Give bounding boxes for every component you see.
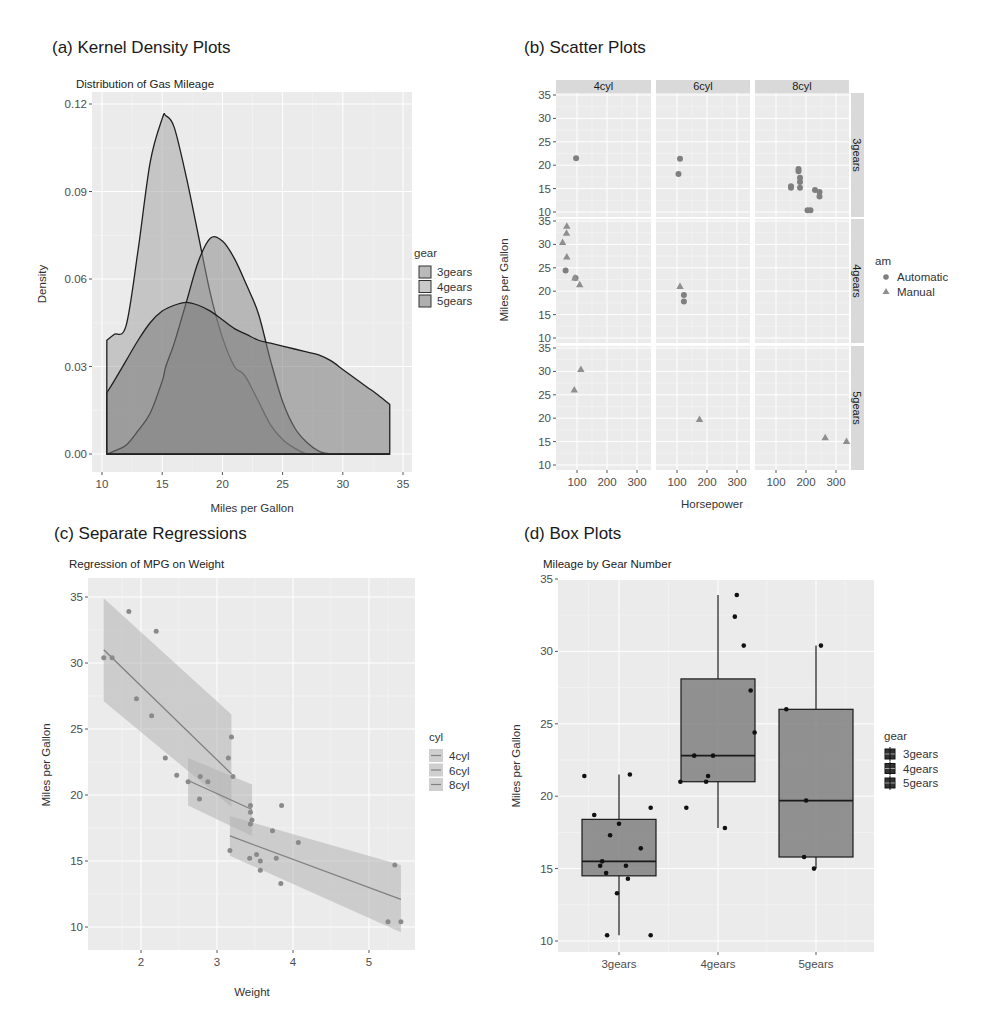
y-tick-label: 20	[70, 789, 83, 801]
box-plot: 1015202530353gears4gears5gearsMiles per …	[510, 573, 938, 970]
y-tick-label: 35	[538, 215, 551, 227]
x-tick-label: 3	[214, 956, 220, 968]
jitter-point	[626, 876, 631, 881]
legend-key-5gears	[419, 295, 431, 307]
y-tick-label: 30	[538, 238, 551, 250]
y-tick-label: 25	[538, 262, 551, 274]
data-point	[174, 773, 179, 778]
jitter-point	[735, 593, 740, 598]
jitter-point	[684, 805, 689, 810]
y-tick-label: 15	[538, 436, 551, 448]
jitter-point	[617, 821, 622, 826]
y-tick-label: 30	[538, 112, 551, 124]
svg-text:8cyl: 8cyl	[792, 80, 812, 92]
jitter-point	[638, 846, 643, 851]
x-tick-label: 200	[796, 476, 815, 488]
legend: gear3gears4gears5gears	[884, 730, 938, 790]
jitter-point	[804, 798, 809, 803]
y-tick-label: 35	[70, 591, 83, 603]
data-point	[274, 856, 279, 861]
y-tick-label: 20	[540, 790, 553, 802]
legend-key-3gears	[419, 266, 431, 278]
jitter-point	[608, 833, 613, 838]
plot-background	[656, 346, 750, 470]
x-tick-label: 200	[597, 476, 616, 488]
jitter-point	[598, 863, 603, 868]
y-axis-title: Miles per Gallon	[510, 724, 522, 807]
plot-background	[656, 219, 750, 343]
x-tick-label: 15	[156, 478, 169, 490]
data-point	[279, 803, 284, 808]
y-tick-label: 30	[538, 365, 551, 377]
data-point-automatic	[676, 171, 682, 177]
jitter-point	[704, 779, 709, 784]
svg-text:gear: gear	[414, 247, 437, 259]
x-tick-label: 300	[826, 476, 845, 488]
y-tick-label: 15	[538, 183, 551, 195]
data-point	[258, 868, 263, 873]
data-point-automatic	[808, 207, 814, 213]
data-point	[296, 840, 301, 845]
box-3gears	[582, 819, 656, 875]
box-5gears	[779, 709, 853, 857]
svg-text:5gears: 5gears	[851, 391, 863, 425]
legend: cyl4cyl6cyl8cyl	[429, 731, 469, 791]
jitter-point	[692, 753, 697, 758]
data-point	[198, 774, 203, 779]
data-point	[270, 828, 275, 833]
legend: gear3gears4gears5gears	[414, 247, 472, 307]
jitter-point	[711, 753, 716, 758]
svg-text:4gears: 4gears	[851, 264, 863, 298]
figure-canvas: 0.000.030.060.090.12101520253035Miles pe…	[0, 0, 982, 1024]
data-point	[248, 822, 253, 827]
x-tick-label: 100	[567, 476, 586, 488]
data-point	[126, 609, 131, 614]
data-point-automatic	[677, 156, 683, 162]
data-point	[186, 779, 191, 784]
x-tick-label: 100	[667, 476, 686, 488]
x-tick-label: 35	[397, 478, 410, 490]
data-point	[248, 803, 253, 808]
jitter-point	[600, 859, 605, 864]
legend-key-manual	[883, 288, 890, 294]
legend-label: 6cyl	[449, 765, 469, 777]
jitter-point	[648, 805, 653, 810]
legend-label: 5gears	[437, 295, 472, 307]
y-tick-label: 10	[70, 921, 83, 933]
y-tick-label: 20	[538, 412, 551, 424]
data-point	[230, 774, 235, 779]
legend-label: 4gears	[903, 763, 938, 775]
y-tick-label: 10	[540, 935, 553, 947]
y-tick-label: 0.06	[65, 273, 87, 285]
data-point	[205, 779, 210, 784]
density-plot: 0.000.030.060.090.12101520253035Miles pe…	[36, 92, 472, 514]
data-point-automatic	[573, 155, 579, 161]
legend-label: 3gears	[437, 266, 472, 278]
x-tick-label: 10	[96, 478, 109, 490]
legend-label: 8cyl	[449, 779, 469, 791]
x-axis-title: Horsepower	[681, 498, 743, 510]
data-point	[197, 796, 202, 801]
data-point-automatic	[797, 179, 803, 185]
svg-text:Automatic: Automatic	[897, 271, 948, 283]
jitter-point	[752, 730, 757, 735]
jitter-point	[605, 933, 610, 938]
plot-background	[755, 346, 849, 470]
data-point	[278, 881, 283, 886]
y-tick-label: 30	[540, 645, 553, 657]
data-point-automatic	[797, 185, 803, 191]
data-point	[248, 810, 253, 815]
svg-text:cyl: cyl	[429, 731, 443, 743]
plot-background	[755, 93, 849, 217]
jitter-point	[628, 772, 633, 777]
y-axis-title: Miles per Gallon	[498, 238, 510, 321]
jitter-point	[741, 643, 746, 648]
svg-text:Manual: Manual	[897, 286, 935, 298]
jitter-point	[604, 871, 609, 876]
x-tick-label: 5gears	[798, 958, 833, 970]
data-point	[247, 856, 252, 861]
x-tick-label: 100	[766, 476, 785, 488]
y-tick-label: 0.09	[65, 186, 87, 198]
jitter-point	[784, 707, 789, 712]
x-tick-label: 5	[366, 956, 372, 968]
